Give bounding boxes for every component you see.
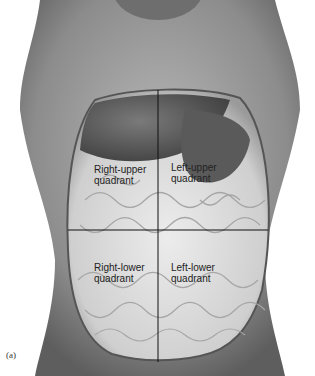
torso-illustration xyxy=(0,0,315,376)
panel-label: (a) xyxy=(6,350,16,360)
label-line: quadrant xyxy=(171,273,215,284)
label-right-upper-quadrant: Right-upper quadrant xyxy=(94,164,146,186)
label-line: quadrant xyxy=(171,173,217,184)
label-line: quadrant xyxy=(94,273,145,284)
label-line: Left-lower xyxy=(171,262,215,273)
label-line: Right-lower xyxy=(94,262,145,273)
label-left-upper-quadrant: Left-upper quadrant xyxy=(171,162,217,184)
label-left-lower-quadrant: Left-lower quadrant xyxy=(171,262,215,284)
label-line: Left-upper xyxy=(171,162,217,173)
label-line: quadrant xyxy=(94,175,146,186)
label-line: Right-upper xyxy=(94,164,146,175)
label-right-lower-quadrant: Right-lower quadrant xyxy=(94,262,145,284)
